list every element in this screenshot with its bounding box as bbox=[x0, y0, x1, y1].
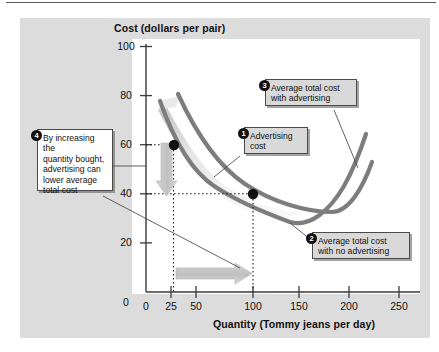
marker-with-advertising-100-40 bbox=[248, 189, 258, 199]
leader-line-callout-4b bbox=[103, 196, 240, 268]
y-tick-label-80: 80 bbox=[112, 89, 140, 101]
y-tick-label-100: 100 bbox=[112, 40, 140, 52]
callout-4-line-4: lower average bbox=[43, 175, 108, 185]
callout-2-line-1: Average total cost bbox=[318, 236, 405, 246]
callout-average-total-cost-with-no-advertising: Average total cost with no advertising bbox=[312, 232, 410, 259]
callout-3-line-1: Average total cost bbox=[271, 83, 352, 93]
callout-badge-4: 4 bbox=[31, 130, 42, 141]
x-tick-label-150: 150 bbox=[287, 300, 311, 312]
callout-4-line-3: advertising can bbox=[43, 164, 108, 174]
callout-3-line-2: with advertising bbox=[271, 93, 352, 103]
callout-1-line-2: cost bbox=[250, 141, 303, 151]
y-tick-label-40: 40 bbox=[112, 187, 140, 199]
y-tick-label-60: 60 bbox=[112, 138, 140, 150]
callout-4-line-2: quantity bought, bbox=[43, 154, 108, 164]
y-tick-label-20: 20 bbox=[112, 236, 140, 248]
callout-4-line-5: total cost bbox=[43, 185, 108, 195]
callout-increasing-quantity: By increasing the quantity bought, adver… bbox=[37, 129, 113, 191]
x-tick-label-50: 50 bbox=[186, 300, 206, 312]
marker-no-advertising-25-60 bbox=[169, 140, 179, 150]
x-tick-label-200: 200 bbox=[337, 300, 361, 312]
x-tick-label-25: 25 bbox=[161, 300, 181, 312]
callout-advertising-cost: Advertising cost bbox=[244, 127, 308, 154]
x-tick-label-0: 0 bbox=[136, 300, 156, 312]
callout-1-line-1: Advertising bbox=[250, 131, 303, 141]
x-axis-title: Quantity (Tommy jeans per day) bbox=[213, 318, 375, 330]
callout-average-total-cost-with-advertising: Average total cost with advertising bbox=[265, 79, 357, 106]
y-axis-title: Cost (dollars per pair) bbox=[114, 22, 225, 34]
callout-badge-3: 3 bbox=[259, 80, 270, 91]
callout-badge-1: 1 bbox=[238, 128, 249, 139]
x-tick-label-250: 250 bbox=[387, 300, 411, 312]
callout-4-line-1: By increasing the bbox=[43, 133, 108, 154]
figure-container: Cost (dollars per pair) Quantity (Tommy … bbox=[0, 0, 439, 352]
callout-2-line-2: with no advertising bbox=[318, 246, 405, 256]
quantity-increase-arrow bbox=[176, 263, 252, 284]
x-tick-label-100: 100 bbox=[241, 300, 265, 312]
callout-badge-2: 2 bbox=[306, 233, 317, 244]
leader-line-callout-3 bbox=[334, 110, 358, 168]
